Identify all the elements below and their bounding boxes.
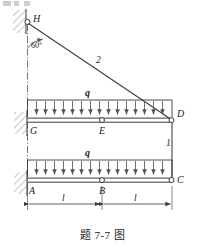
hinge-E bbox=[100, 118, 105, 123]
label-q-upper: q bbox=[85, 88, 90, 98]
label-A: A bbox=[29, 186, 35, 196]
label-D: D bbox=[177, 109, 184, 119]
hinge-B bbox=[100, 178, 105, 183]
hinge-D bbox=[169, 118, 174, 123]
label-dim-left: l bbox=[62, 194, 65, 204]
label-member-2: 2 bbox=[96, 56, 101, 66]
fixed-support-A bbox=[14, 170, 27, 196]
distributed-load-lower bbox=[28, 160, 173, 177]
label-E: E bbox=[99, 126, 105, 136]
hinge-C bbox=[169, 178, 174, 183]
fixed-support-G bbox=[14, 110, 27, 136]
label-H: H bbox=[33, 14, 40, 24]
label-G: G bbox=[30, 126, 37, 136]
label-q-lower: q bbox=[85, 148, 90, 158]
label-angle-60: 60° bbox=[31, 42, 42, 50]
label-B: B bbox=[99, 186, 105, 196]
label-dim-right: l bbox=[134, 194, 137, 204]
label-member-1: 1 bbox=[166, 139, 171, 149]
member-2-diagonal bbox=[29, 24, 173, 121]
figure-caption: 题 7-7 图 bbox=[0, 226, 205, 242]
label-C: C bbox=[177, 175, 184, 185]
distributed-load-upper bbox=[28, 100, 173, 117]
wall-support-top bbox=[13, 9, 26, 34]
